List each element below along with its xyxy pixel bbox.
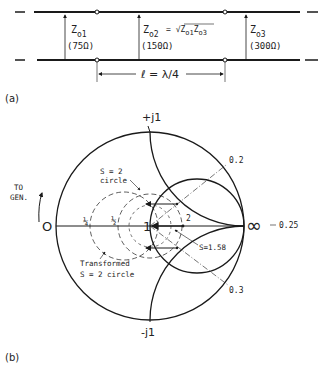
z-o1-label: Zo1 <box>71 24 87 39</box>
transmission-line-diagram: Zo1 (75Ω) Zo2 = √Zo1Zo3 (150Ω) Zo3 (300Ω… <box>5 10 318 104</box>
to-gen-label-1: TO <box>14 183 24 192</box>
junction-node <box>95 58 99 62</box>
two-label: 2 <box>186 214 191 223</box>
length-label: ℓ = λ/4 <box>140 68 179 81</box>
s158-label: S=1.58 <box>199 243 227 252</box>
s2-circle-label-1: S = 2 <box>100 167 123 176</box>
z-o2-formula: = √Zo1Zo3 <box>166 25 207 37</box>
zero-label: O <box>42 219 52 234</box>
minus-j1-label: -j1 <box>141 326 155 339</box>
wavelength-0.2: 0.2 <box>229 156 244 165</box>
junction-node <box>223 10 227 14</box>
to-gen-label-2: GEN. <box>10 193 28 202</box>
top-tick <box>148 126 150 132</box>
z-o3-label: Zo3 <box>250 24 266 39</box>
infinity-label: ∞ <box>246 214 262 236</box>
s2-circle-label-2: circle <box>100 176 128 185</box>
wavelength-0.25: 0.25 <box>279 221 298 230</box>
transformed-leader <box>100 252 105 259</box>
s2-leader <box>130 180 140 190</box>
z-o2-value: (150Ω) <box>141 41 174 51</box>
radial-line-0.3 <box>150 226 228 285</box>
caption-a: (a) <box>5 93 19 104</box>
s158-leader <box>175 230 198 245</box>
plus-j1-label: +j1 <box>142 111 161 124</box>
junction-node <box>95 10 99 14</box>
point-2 <box>182 225 185 228</box>
junction-node <box>223 58 227 62</box>
z-o3-value: (300Ω) <box>249 41 282 51</box>
half-label: ½ <box>111 216 116 226</box>
center-1-label: 1 <box>143 219 151 234</box>
transformed-label-1: Transformed <box>80 259 130 268</box>
quarter-wave-transformer-figure: Zo1 (75Ω) Zo2 = √Zo1Zo3 (150Ω) Zo3 (300Ω… <box>0 0 325 375</box>
z-o1-value: (75Ω) <box>67 41 94 51</box>
to-gen-arrow <box>39 193 42 222</box>
transformed-label-2: S = 2 circle <box>80 270 135 279</box>
quarter-label: ¼ <box>83 216 88 226</box>
caption-b: (b) <box>5 352 19 363</box>
wavelength-0.3: 0.3 <box>229 286 244 295</box>
mapping-point <box>176 247 178 249</box>
smith-chart: +j1 -j1 O ∞ 1 0.25 0.2 0.3 ¼ ½ 2 S = 2 c… <box>5 111 298 363</box>
mapping-point <box>176 203 178 205</box>
z-o2-label: Zo2 <box>143 24 159 39</box>
